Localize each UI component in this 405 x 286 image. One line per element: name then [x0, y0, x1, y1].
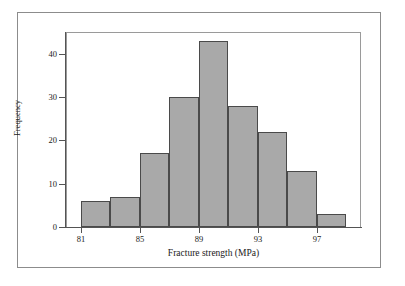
- y-axis-tick: [59, 227, 65, 228]
- y-axis-tick: [59, 54, 65, 55]
- x-axis-tick: [258, 228, 259, 233]
- histogram-bar: [169, 97, 199, 227]
- x-axis-tick: [81, 228, 82, 233]
- x-axis-tick: [317, 228, 318, 233]
- histogram-bar: [199, 41, 229, 227]
- histogram-bar: [287, 171, 317, 227]
- y-axis-tick-label: 20: [35, 136, 57, 145]
- x-axis-tick-label: 93: [244, 234, 272, 244]
- y-axis-tick: [59, 140, 65, 141]
- histogram-bar: [317, 214, 347, 227]
- y-axis-title: Frequency: [12, 73, 22, 163]
- histogram-figure: 010203040 8185899397 Fracture strength (…: [0, 0, 405, 286]
- x-axis-tick-label: 89: [185, 234, 213, 244]
- y-axis-tick-label: 0: [35, 223, 57, 232]
- plot-area: [66, 32, 361, 227]
- histogram-bar: [228, 106, 258, 227]
- x-axis-tick: [199, 228, 200, 233]
- x-axis-tick-label: 81: [67, 234, 95, 244]
- y-axis-tick: [59, 184, 65, 185]
- histogram-bar: [140, 153, 170, 227]
- x-axis-tick-label: 97: [303, 234, 331, 244]
- y-axis-tick-label: 40: [35, 50, 57, 59]
- y-axis-tick-label: 30: [35, 93, 57, 102]
- x-axis-tick: [140, 228, 141, 233]
- y-axis-line: [65, 32, 66, 228]
- histogram-bar: [81, 201, 111, 227]
- histogram-bar: [110, 197, 140, 227]
- y-axis-tick: [59, 97, 65, 98]
- histogram-bar: [258, 132, 288, 227]
- histogram-bars: [66, 32, 361, 227]
- y-axis-tick-label: 10: [35, 180, 57, 189]
- x-axis-title: Fracture strength (MPa): [66, 248, 361, 258]
- x-axis-tick-label: 85: [126, 234, 154, 244]
